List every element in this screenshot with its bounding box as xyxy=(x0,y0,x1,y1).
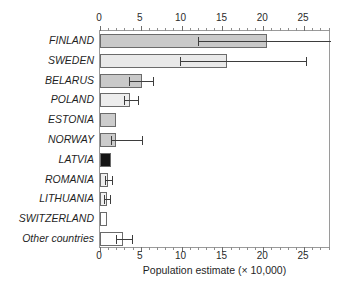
x-tick-label-top-10: 10 xyxy=(175,12,186,23)
x-tick-major-top-5 xyxy=(141,26,142,31)
x-tick-label-bot-20: 20 xyxy=(257,250,268,261)
x-tick-major-bottom-10 xyxy=(182,247,183,252)
x-tick-label-bot-25: 25 xyxy=(298,250,309,261)
error-bar-cap-high-lithuania xyxy=(110,195,111,204)
x-tick-major-top-10 xyxy=(182,26,183,31)
x-tick-minor-bottom-16 xyxy=(231,247,232,250)
x-tick-minor-bottom-8 xyxy=(165,247,166,250)
error-bar-cap-high-sweden xyxy=(306,57,307,66)
x-tick-minor-top-21 xyxy=(271,28,272,31)
x-tick-major-top-0 xyxy=(100,26,101,31)
x-tick-minor-bottom-24 xyxy=(296,247,297,250)
error-bar-cap-high-poland xyxy=(138,96,139,105)
x-tick-minor-top-9 xyxy=(173,28,174,31)
x-tick-minor-top-18 xyxy=(247,28,248,31)
x-tick-label-bot-15: 15 xyxy=(216,250,227,261)
x-tick-minor-bottom-9 xyxy=(173,247,174,250)
bar-estonia xyxy=(100,113,116,127)
error-bar-line-belarus xyxy=(129,81,153,82)
x-tick-minor-top-13 xyxy=(206,28,207,31)
x-tick-minor-bottom-19 xyxy=(255,247,256,250)
error-bar-cap-low-poland xyxy=(124,96,125,105)
x-tick-minor-top-8 xyxy=(165,28,166,31)
x-tick-minor-bottom-2 xyxy=(116,247,117,250)
x-tick-major-bottom-0 xyxy=(100,247,101,252)
error-bar-cap-low-lithuania xyxy=(104,195,105,204)
x-tick-label-top-0: 0 xyxy=(96,12,102,23)
x-tick-minor-bottom-13 xyxy=(206,247,207,250)
x-tick-minor-top-12 xyxy=(198,28,199,31)
x-tick-minor-bottom-18 xyxy=(247,247,248,250)
x-tick-minor-top-22 xyxy=(280,28,281,31)
x-tick-minor-bottom-21 xyxy=(271,247,272,250)
x-tick-major-bottom-15 xyxy=(222,247,223,252)
x-tick-minor-top-11 xyxy=(190,28,191,31)
x-tick-minor-top-3 xyxy=(124,28,125,31)
bar-latvia xyxy=(100,153,111,167)
x-tick-minor-bottom-7 xyxy=(157,247,158,250)
x-tick-major-top-15 xyxy=(222,26,223,31)
x-tick-minor-bottom-26 xyxy=(312,247,313,250)
bar-switzerland xyxy=(100,212,107,226)
x-tick-minor-top-19 xyxy=(255,28,256,31)
category-label-lithuania: LITHUANIA xyxy=(39,192,94,204)
x-tick-minor-top-4 xyxy=(133,28,134,31)
x-axis-title: Population estimate (× 10,000) xyxy=(99,264,330,276)
error-bar-cap-high-belarus xyxy=(153,77,154,86)
category-label-latvia: LATVIA xyxy=(59,153,94,165)
x-tick-minor-top-1 xyxy=(108,28,109,31)
x-tick-major-bottom-25 xyxy=(304,247,305,252)
error-bar-cap-low-norway xyxy=(111,136,112,145)
bar-chart-figure: 00551010151520202525FINLANDSWEDENBELARUS… xyxy=(0,0,345,286)
category-label-belarus: BELARUS xyxy=(45,74,94,86)
category-label-estonia: ESTONIA xyxy=(48,113,94,125)
error-bar-cap-low-belarus xyxy=(129,77,130,86)
x-tick-minor-top-6 xyxy=(149,28,150,31)
x-tick-minor-top-16 xyxy=(231,28,232,31)
x-tick-minor-top-26 xyxy=(312,28,313,31)
error-bar-line-norway xyxy=(111,140,142,141)
plot-area xyxy=(99,30,330,248)
error-bar-cap-high-other-countries xyxy=(132,235,133,244)
error-bar-cap-low-romania xyxy=(105,176,106,185)
x-tick-minor-bottom-6 xyxy=(149,247,150,250)
x-tick-label-top-20: 20 xyxy=(257,12,268,23)
category-label-other-countries: Other countries xyxy=(22,232,94,244)
x-tick-label-bot-10: 10 xyxy=(175,250,186,261)
x-tick-minor-bottom-28 xyxy=(329,247,330,250)
x-tick-major-top-20 xyxy=(263,26,264,31)
x-tick-label-top-25: 25 xyxy=(298,12,309,23)
category-label-poland: POLAND xyxy=(51,93,94,105)
category-label-switzerland: SWITZERLAND xyxy=(19,212,94,224)
x-tick-minor-bottom-27 xyxy=(320,247,321,250)
error-bar-line-other-countries xyxy=(116,239,132,240)
x-tick-minor-bottom-23 xyxy=(288,247,289,250)
x-tick-major-bottom-20 xyxy=(263,247,264,252)
error-bar-line-poland xyxy=(124,100,137,101)
x-tick-minor-bottom-22 xyxy=(280,247,281,250)
category-label-sweden: SWEDEN xyxy=(48,54,94,66)
error-bar-cap-low-other-countries xyxy=(116,235,117,244)
x-tick-minor-top-17 xyxy=(239,28,240,31)
x-tick-minor-bottom-4 xyxy=(133,247,134,250)
x-tick-minor-bottom-12 xyxy=(198,247,199,250)
x-tick-minor-top-2 xyxy=(116,28,117,31)
x-tick-minor-bottom-17 xyxy=(239,247,240,250)
x-tick-minor-bottom-1 xyxy=(108,247,109,250)
error-bar-cap-low-finland xyxy=(198,37,199,46)
x-tick-label-top-5: 5 xyxy=(137,12,143,23)
x-tick-minor-top-14 xyxy=(214,28,215,31)
x-tick-minor-bottom-14 xyxy=(214,247,215,250)
category-label-norway: NORWAY xyxy=(48,133,94,145)
x-tick-minor-bottom-11 xyxy=(190,247,191,250)
x-tick-minor-top-28 xyxy=(329,28,330,31)
x-tick-minor-top-7 xyxy=(157,28,158,31)
error-bar-line-finland xyxy=(198,41,331,42)
x-tick-major-bottom-5 xyxy=(141,247,142,252)
error-bar-cap-low-sweden xyxy=(180,57,181,66)
error-bar-cap-high-norway xyxy=(142,136,143,145)
x-tick-minor-top-27 xyxy=(320,28,321,31)
x-tick-label-top-15: 15 xyxy=(216,12,227,23)
error-bar-line-sweden xyxy=(180,61,306,62)
x-tick-minor-bottom-3 xyxy=(124,247,125,250)
